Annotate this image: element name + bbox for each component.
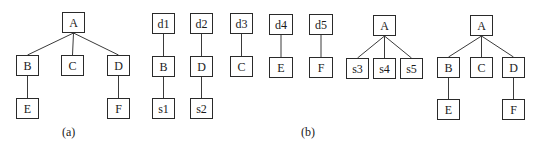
tree-node-d: D: [107, 55, 130, 76]
tree-node-a: A: [62, 12, 85, 33]
tree-node-e: E: [16, 98, 39, 119]
caption-panel-b: (b): [301, 126, 315, 138]
tree-edge: [385, 36, 412, 58]
tree-node-s2: s2: [190, 98, 213, 119]
tree-node-b: B: [16, 55, 39, 76]
tree-node-b: B: [437, 57, 460, 78]
tree-diagram-figure: ABCDEFd1Bs1d2Ds2d3Cd4Ed5FAs3s4s5ABCDEF (…: [0, 0, 537, 145]
tree-node-s1: s1: [152, 98, 175, 119]
tree-node-e: E: [437, 99, 460, 120]
tree-edge: [482, 36, 514, 57]
tree-node-c: C: [230, 56, 253, 77]
caption-panel-a: (a): [62, 126, 75, 138]
tree-node-a: A: [470, 15, 493, 36]
tree-edge: [28, 33, 74, 55]
tree-edge: [449, 36, 482, 57]
tree-node-e: E: [269, 57, 293, 78]
tree-edge: [358, 36, 385, 58]
tree-node-d5: d5: [309, 14, 333, 35]
tree-node-s5: s5: [400, 58, 423, 79]
tree-node-d3: d3: [230, 13, 253, 34]
tree-node-d: D: [502, 57, 525, 78]
tree-edge: [73, 33, 74, 55]
tree-edge: [74, 33, 119, 55]
tree-node-b: B: [152, 56, 175, 77]
tree-node-c: C: [470, 57, 493, 78]
tree-node-d: D: [190, 56, 213, 77]
tree-node-d4: d4: [269, 14, 293, 35]
tree-node-f: F: [309, 57, 333, 78]
tree-node-s4: s4: [373, 58, 396, 79]
tree-node-c: C: [61, 55, 84, 76]
tree-node-s3: s3: [346, 58, 369, 79]
tree-node-f: F: [107, 98, 130, 119]
tree-node-d1: d1: [152, 13, 175, 34]
tree-node-d2: d2: [190, 13, 213, 34]
tree-node-f: F: [502, 99, 525, 120]
tree-node-a: A: [373, 15, 396, 36]
